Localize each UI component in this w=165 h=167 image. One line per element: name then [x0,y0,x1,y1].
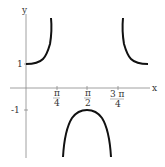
x-tick-3pi-4-num: 3 π [110,89,125,99]
x-tick-pi-2-num: π [85,88,91,98]
y-tick-label-neg1: -1 [11,105,20,115]
x-axis-label: x [152,83,157,93]
x-tick-pi-4-num: π [54,88,60,98]
y-tick-label-1: 1 [17,59,23,69]
curve-branch-middle [63,110,111,157]
curve-branch-left [26,18,51,64]
sec-2x-plot: x y 1 -1 π 4 π 2 3 π 4 [0,0,165,167]
curve-branch-right [123,18,148,64]
x-tick-pi-4-den: 4 [54,98,60,108]
x-tick-pi-2-den: 2 [85,98,91,108]
x-tick-3pi-4-den: 4 [115,99,121,109]
y-axis-label: y [21,5,28,15]
